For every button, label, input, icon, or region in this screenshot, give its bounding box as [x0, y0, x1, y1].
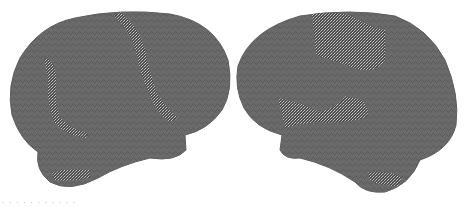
- brain-figure: · · · · · · · · · · ·: [0, 0, 468, 207]
- left-hemisphere: [10, 12, 230, 187]
- brain-renderings: [0, 0, 468, 207]
- figure-caption: · · · · · · · · · · ·: [2, 199, 76, 207]
- right-hemisphere: [237, 12, 457, 192]
